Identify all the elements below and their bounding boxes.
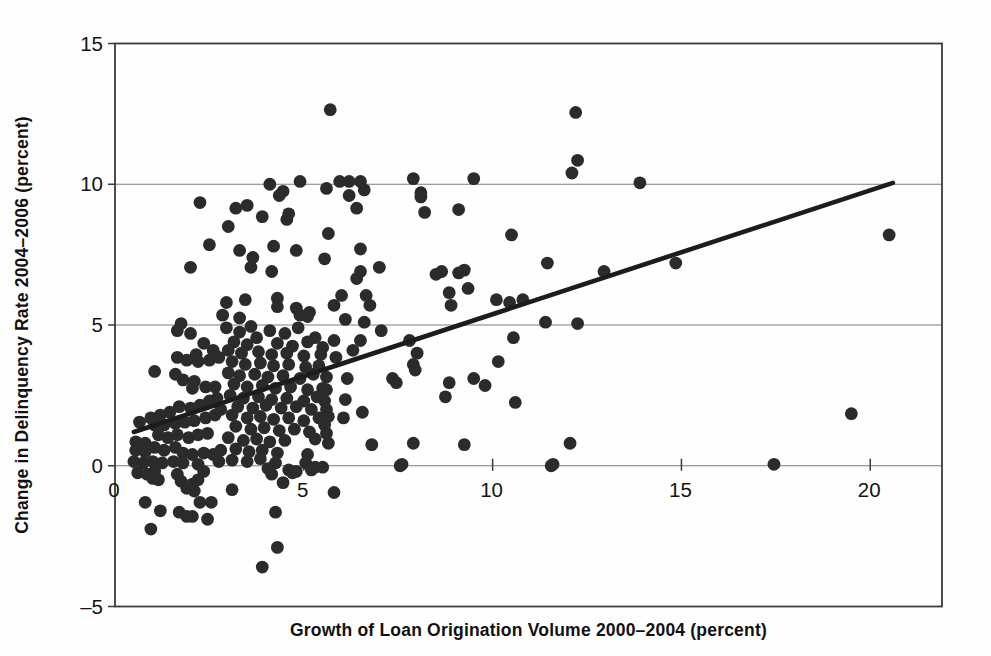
scatter-point xyxy=(566,167,579,180)
scatter-point xyxy=(373,261,386,274)
scatter-point xyxy=(322,437,335,450)
scatter-point xyxy=(254,410,267,423)
scatter-point xyxy=(350,202,363,215)
x-tick-label-10: 10 xyxy=(480,478,503,501)
scatter-point xyxy=(569,106,582,119)
scatter-point xyxy=(479,379,492,392)
scatter-point xyxy=(188,485,201,498)
scatter-point xyxy=(226,483,239,496)
scatter-point xyxy=(263,178,276,191)
scatter-point xyxy=(256,561,269,574)
scatter-point xyxy=(309,433,322,446)
scatter-point xyxy=(354,334,367,347)
scatter-point xyxy=(277,476,290,489)
scatter-point xyxy=(248,368,261,381)
scatter-point xyxy=(233,312,246,325)
scatter-point xyxy=(201,513,214,526)
scatter-point xyxy=(222,366,235,379)
scatter-point xyxy=(228,378,241,391)
scatter-point xyxy=(768,458,781,471)
scatter-point xyxy=(267,240,280,253)
scatter-point xyxy=(490,293,503,306)
scatter-point xyxy=(354,243,367,256)
scatter-point xyxy=(358,316,371,329)
scatter-point xyxy=(250,433,263,446)
scatter-point xyxy=(407,437,420,450)
figure-page: –505101505101520 Change in Delinquency R… xyxy=(0,0,991,656)
scatter-point xyxy=(201,427,214,440)
scatter-point xyxy=(226,454,239,467)
scatter-point xyxy=(669,257,682,270)
scatter-point xyxy=(292,321,305,334)
scatter-point xyxy=(539,316,552,329)
scatter-point xyxy=(492,355,505,368)
scatter-point xyxy=(435,265,448,278)
scatter-point xyxy=(462,282,475,295)
scatter-point xyxy=(267,359,280,372)
scatter-point xyxy=(883,229,896,242)
scatter-point xyxy=(439,390,452,403)
scatter-point xyxy=(154,504,167,517)
scatter-point xyxy=(320,182,333,195)
scatter-point xyxy=(290,400,303,413)
scatter-point xyxy=(252,345,265,358)
scatter-point xyxy=(233,244,246,257)
scatter-point xyxy=(282,358,295,371)
scatter-point xyxy=(314,348,327,361)
scatter-point xyxy=(203,238,216,251)
scatter-point xyxy=(328,334,341,347)
scatter-point xyxy=(564,437,577,450)
x-axis-title: Growth of Loan Origination Volume 2000–2… xyxy=(115,620,942,641)
scatter-point xyxy=(282,207,295,220)
y-tick-label-15: 15 xyxy=(80,32,103,55)
scatter-point xyxy=(458,438,471,451)
scatter-point xyxy=(571,317,584,330)
scatter-point xyxy=(324,103,337,116)
scatter-point xyxy=(288,423,301,436)
scatter-point xyxy=(245,320,258,333)
scatter-point xyxy=(279,434,292,447)
scatter-point xyxy=(194,196,207,209)
scatter-point xyxy=(845,407,858,420)
scatter-point xyxy=(254,357,267,370)
scatter-point xyxy=(239,358,252,371)
scatter-point xyxy=(262,462,275,475)
scatter-point xyxy=(241,455,254,468)
scatter-point xyxy=(205,496,218,509)
scatter-point xyxy=(209,381,222,394)
scatter-point xyxy=(184,261,197,274)
scatter-point xyxy=(467,372,480,385)
scatter-point xyxy=(229,420,242,433)
scatter-point xyxy=(226,409,239,422)
scatter-point xyxy=(541,257,554,270)
scatter-point xyxy=(335,289,348,302)
scatter-point xyxy=(256,210,269,223)
scatter-point xyxy=(363,299,376,312)
scatter-point xyxy=(409,364,422,377)
scatter-point xyxy=(294,175,307,188)
scatter-point xyxy=(212,455,225,468)
scatter-point xyxy=(197,465,210,478)
scatter-point xyxy=(297,350,310,363)
scatter-point xyxy=(241,411,254,424)
scatter-point xyxy=(280,347,293,360)
scatter-point xyxy=(158,444,171,457)
scatter-point xyxy=(271,337,284,350)
x-tick-label-20: 20 xyxy=(858,478,881,501)
scatter-point xyxy=(171,324,184,337)
scatter-point xyxy=(375,324,388,337)
scatter-point xyxy=(458,264,471,277)
y-axis-title: Change in Delinquency Rate 2004–2006 (pe… xyxy=(12,45,36,605)
scatter-point xyxy=(184,327,197,340)
scatter-point xyxy=(414,191,427,204)
scatter-point xyxy=(265,265,278,278)
scatter-point xyxy=(258,421,271,434)
scatter-point xyxy=(313,411,326,424)
scatter-point xyxy=(350,272,363,285)
scatter-point xyxy=(241,199,254,212)
x-tick-label-15: 15 xyxy=(669,478,692,501)
scatter-point xyxy=(301,335,314,348)
scatter-point xyxy=(509,396,522,409)
scatter-point xyxy=(188,414,201,427)
scatter-point xyxy=(222,431,235,444)
